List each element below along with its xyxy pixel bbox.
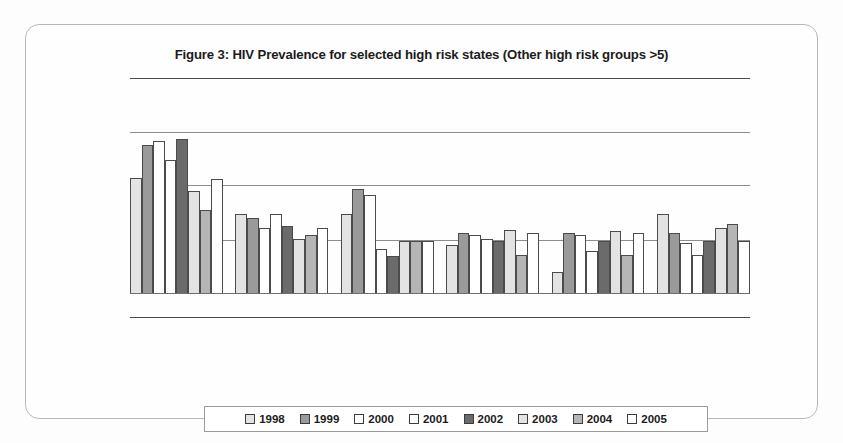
- bar: [516, 255, 528, 293]
- legend-swatch-icon: [300, 414, 310, 424]
- bar: [680, 243, 692, 293]
- bar: [703, 241, 715, 293]
- bar: [621, 255, 633, 293]
- legend-swatch-icon: [518, 414, 528, 424]
- legend-label: 2000: [368, 413, 394, 425]
- bar: [352, 189, 364, 293]
- bar: [247, 218, 259, 293]
- bar: [130, 178, 142, 293]
- bar: [446, 245, 458, 293]
- bar: [669, 233, 681, 293]
- figure-card: Figure 3: HIV Prevalence for selected hi…: [25, 24, 818, 419]
- figure-title: Figure 3: HIV Prevalence for selected hi…: [26, 47, 817, 62]
- bar: [211, 179, 223, 293]
- bar: [387, 256, 399, 293]
- legend-item-2004[interactable]: 2004: [573, 413, 613, 425]
- legend-swatch-icon: [627, 414, 637, 424]
- bar: [142, 145, 154, 293]
- chart-legend: 19981999200020012002200320042005: [204, 406, 708, 432]
- legend-label: 2004: [587, 413, 613, 425]
- bar: [200, 210, 212, 293]
- bar: [481, 239, 493, 293]
- bar: [410, 241, 422, 293]
- bar-group: [235, 78, 328, 318]
- legend-swatch-icon: [573, 414, 583, 424]
- bar-group: [657, 78, 750, 318]
- figure-page: Figure 3: HIV Prevalence for selected hi…: [0, 0, 843, 443]
- bar: [282, 226, 294, 293]
- bar: [598, 241, 610, 293]
- bar: [364, 195, 376, 293]
- legend-item-2003[interactable]: 2003: [518, 413, 558, 425]
- bar-group: [552, 78, 645, 318]
- bar-groups: [130, 78, 750, 318]
- bar: [469, 235, 481, 293]
- legend-item-2001[interactable]: 2001: [409, 413, 449, 425]
- bar: [305, 235, 317, 293]
- bar: [493, 241, 505, 293]
- bar: [738, 241, 750, 293]
- legend-swatch-icon: [409, 414, 419, 424]
- legend-label: 2002: [478, 413, 504, 425]
- bar: [552, 272, 564, 293]
- legend-swatch-icon: [354, 414, 364, 424]
- bar: [458, 233, 470, 293]
- bar: [727, 224, 739, 293]
- bar: [715, 228, 727, 293]
- bar: [633, 233, 645, 293]
- bar: [176, 139, 188, 293]
- bar-chart-plot-area: [130, 78, 750, 318]
- bar: [399, 241, 411, 293]
- bar: [293, 239, 305, 293]
- bar: [422, 241, 434, 293]
- legend-label: 2001: [423, 413, 449, 425]
- bar: [317, 228, 329, 293]
- legend-item-1998[interactable]: 1998: [245, 413, 285, 425]
- bar: [692, 255, 704, 293]
- bar: [610, 231, 622, 293]
- bar: [504, 230, 516, 294]
- bar: [188, 191, 200, 293]
- bar: [235, 214, 247, 293]
- legend-item-1999[interactable]: 1999: [300, 413, 340, 425]
- bar: [165, 160, 177, 293]
- legend-label: 2003: [532, 413, 558, 425]
- bar: [270, 214, 282, 293]
- legend-swatch-icon: [464, 414, 474, 424]
- bar: [153, 141, 165, 293]
- bar: [563, 233, 575, 293]
- bar: [341, 214, 353, 293]
- legend-label: 2005: [641, 413, 667, 425]
- bar-group: [341, 78, 434, 318]
- legend-label: 1998: [259, 413, 285, 425]
- bar: [657, 214, 669, 293]
- bar: [376, 249, 388, 293]
- bar: [527, 233, 539, 293]
- legend-item-2000[interactable]: 2000: [354, 413, 394, 425]
- legend-item-2002[interactable]: 2002: [464, 413, 504, 425]
- bar-group: [446, 78, 539, 318]
- legend-item-2005[interactable]: 2005: [627, 413, 667, 425]
- bar: [586, 251, 598, 293]
- bar: [259, 228, 271, 293]
- bar-group: [130, 78, 223, 318]
- bar: [575, 235, 587, 293]
- legend-swatch-icon: [245, 414, 255, 424]
- legend-label: 1999: [314, 413, 340, 425]
